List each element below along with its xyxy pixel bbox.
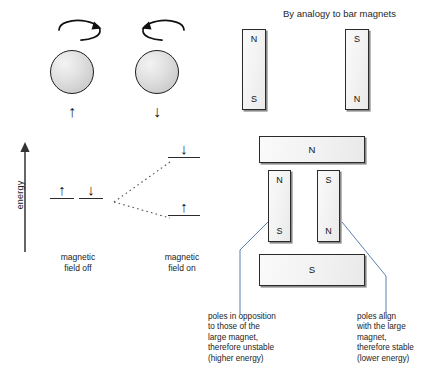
caption-leader-lines — [228, 222, 408, 314]
energy-level-line — [79, 198, 103, 199]
caption-unstable: poles in opposition to those of the larg… — [208, 312, 326, 364]
level-field-on-upper: ↓ — [168, 141, 200, 158]
caption-stable: poles align with the large magnet, there… — [357, 312, 432, 364]
spin-up-label: ↑ — [50, 104, 94, 120]
large-magnet-top: N — [259, 136, 365, 163]
particle-sphere — [50, 50, 94, 94]
state-arrow-down: ↓ — [168, 141, 200, 156]
clockwise-spin-arrow-icon — [50, 18, 108, 44]
pole-south: S — [243, 95, 265, 104]
energy-axis-label: energy — [15, 171, 25, 219]
level-field-off-up: ↑ — [50, 182, 74, 199]
spin-down-particle-group: ↓ — [135, 18, 193, 120]
state-arrow-up: ↑ — [168, 199, 200, 214]
energy-level-line — [168, 157, 200, 158]
figure-canvas: ↑ ↓ energy ↑ ↓ magnetic field off ↓ — [0, 0, 432, 375]
field-on-caption: magnetic field on — [144, 252, 220, 274]
pole-south: S — [318, 176, 339, 185]
energy-axis-label-wrap: energy — [0, 190, 44, 200]
pole-north: N — [346, 95, 368, 104]
bar-magnet-left: N S — [242, 29, 266, 110]
energy-level-line — [168, 215, 200, 216]
level-field-on-lower: ↑ — [168, 199, 200, 216]
pole-north: N — [260, 145, 364, 155]
energy-level-line — [50, 198, 74, 199]
field-off-caption: magnetic field off — [40, 252, 116, 274]
state-arrow-up: ↑ — [50, 182, 74, 197]
spin-down-label: ↓ — [135, 104, 179, 120]
counterclockwise-spin-arrow-icon — [135, 18, 193, 44]
pole-south: S — [346, 35, 368, 44]
level-field-off-down: ↓ — [79, 182, 103, 199]
pole-north: N — [243, 35, 265, 44]
spin-up-particle-group: ↑ — [50, 18, 108, 120]
state-arrow-down: ↓ — [79, 182, 103, 197]
particle-sphere — [135, 50, 179, 94]
bar-magnet-right: S N — [345, 29, 369, 110]
bar-magnet-analogy-title: By analogy to bar magnets — [283, 8, 396, 19]
pole-north: N — [269, 176, 290, 185]
